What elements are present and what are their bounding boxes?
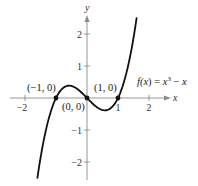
y-axis-arrow-icon xyxy=(85,15,90,22)
x-axis-arrow-icon xyxy=(164,96,171,101)
point-label-origin: (0, 0) xyxy=(62,101,85,113)
function-label: f(x) = x3 − x xyxy=(137,75,187,88)
function-graph: x −212 y −2−112 (−1, 0) (0, 0) (1, 0) f(… xyxy=(0,0,198,186)
point-label-pos1: (1, 0) xyxy=(94,82,117,94)
y-tick-label: −2 xyxy=(71,157,82,168)
y-tick-label: −1 xyxy=(71,125,82,136)
zero-point-dot xyxy=(116,96,121,101)
x-tick-label: −2 xyxy=(17,102,28,113)
point-label-neg1: (−1, 0) xyxy=(27,82,56,94)
fn-x2: x xyxy=(181,76,187,87)
x-axis-label: x xyxy=(172,92,178,103)
zero-point-dot xyxy=(54,96,59,101)
fn-minus: − xyxy=(171,76,182,87)
y-axis-label: y xyxy=(84,2,90,13)
x-axis: x −212 xyxy=(10,92,178,113)
y-tick-label: 1 xyxy=(77,61,82,72)
fn-eq: ) = xyxy=(148,76,163,88)
y-tick-label: 2 xyxy=(77,29,82,40)
zero-point-dot xyxy=(85,96,90,101)
x-tick-label: 2 xyxy=(147,102,152,113)
x-tick-label: 1 xyxy=(116,102,121,113)
